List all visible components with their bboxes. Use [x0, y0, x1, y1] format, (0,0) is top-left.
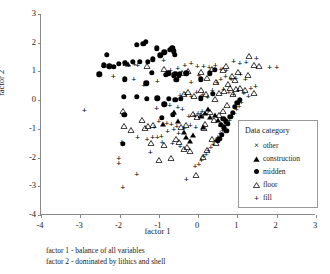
point-fill: + [226, 87, 231, 96]
point-midden [172, 52, 177, 57]
point-midden [167, 47, 172, 52]
point-floor [232, 79, 239, 85]
point-floor [194, 107, 201, 113]
caption-line-1: factor 1 - balance of all variables [46, 245, 165, 256]
point-fill: + [253, 82, 258, 91]
x-tick [237, 215, 238, 218]
point-fill: + [135, 60, 140, 69]
point-midden [210, 91, 215, 96]
point-midden [219, 132, 224, 137]
legend-entry-construction[interactable]: construction [250, 152, 317, 165]
point-fill: + [239, 98, 244, 107]
point-fill: + [243, 58, 248, 67]
point-fill: + [243, 74, 248, 83]
point-fill: + [144, 134, 149, 143]
point-midden [170, 112, 175, 117]
legend-entry-fill[interactable]: +fill [250, 191, 317, 204]
point-floor [155, 150, 162, 156]
point-fill: + [169, 120, 174, 129]
y-tick-label: -2 [18, 153, 36, 162]
legend-entry-floor[interactable]: floor [250, 178, 317, 191]
y-tick-label: 1 [18, 66, 36, 75]
point-construction [218, 121, 224, 126]
point-fill: + [122, 76, 127, 85]
point-midden [166, 70, 171, 75]
legend-symbol-floor-icon [250, 182, 263, 188]
point-fill: + [161, 99, 166, 108]
point-fill: + [196, 71, 201, 80]
y-tick-label: -3 [18, 181, 36, 190]
point-fill: + [170, 139, 175, 148]
point-floor [183, 115, 190, 121]
point-construction [207, 115, 213, 120]
x-tick [120, 215, 121, 218]
point-fill: + [210, 139, 215, 148]
point-fill: + [222, 122, 227, 131]
point-floor [128, 120, 135, 126]
legend-label: midden [263, 167, 286, 176]
point-midden [140, 41, 145, 46]
point-floor [148, 133, 155, 139]
point-fill: + [159, 132, 164, 141]
point-fill: + [248, 83, 253, 92]
point-midden [121, 94, 126, 99]
point-fill: + [181, 123, 186, 132]
legend-entry-midden[interactable]: midden [250, 165, 317, 178]
point-construction [198, 114, 204, 119]
point-floor [219, 101, 226, 107]
point-floor [184, 61, 191, 67]
point-floor [191, 86, 198, 92]
point-floor [184, 82, 191, 88]
point-fill: + [231, 90, 236, 99]
point-midden [144, 96, 149, 101]
point-floor [177, 117, 184, 123]
point-fill: + [225, 119, 230, 128]
point-construction [175, 118, 181, 123]
point-midden [149, 70, 154, 75]
point-fill: + [208, 142, 213, 151]
point-floor [235, 62, 242, 68]
point-floor [173, 129, 180, 135]
point-fill: + [241, 88, 246, 97]
point-floor [189, 104, 196, 110]
point-midden [184, 70, 189, 75]
point-fill: + [119, 138, 124, 147]
legend-title: Data category [245, 126, 317, 135]
point-floor [236, 78, 243, 84]
point-floor [203, 140, 210, 146]
point-midden [162, 50, 167, 55]
point-fill: + [213, 136, 218, 145]
point-midden [163, 72, 168, 77]
point-floor [226, 78, 233, 84]
legend-symbol-fill-icon: + [250, 193, 263, 203]
point-fill: + [221, 84, 226, 93]
point-midden [134, 94, 139, 99]
legend-label: other [263, 141, 278, 150]
point-fill: + [215, 132, 220, 141]
point-midden [120, 141, 125, 146]
point-fill: + [152, 122, 157, 131]
x-tick [159, 215, 160, 218]
point-construction [190, 133, 196, 138]
point-fill: + [246, 92, 251, 101]
point-midden [228, 114, 233, 119]
point-fill: + [236, 85, 241, 94]
point-fill: + [188, 58, 193, 67]
x-tick [277, 215, 278, 218]
point-construction [212, 112, 218, 117]
point-midden [101, 62, 106, 67]
point-fill: + [254, 54, 259, 63]
point-fill: + [192, 162, 197, 171]
y-tick [38, 129, 41, 130]
legend-entry-other[interactable]: ×other [250, 139, 317, 152]
point-fill: + [161, 55, 166, 64]
point-floor [224, 95, 231, 101]
point-midden [173, 71, 178, 76]
point-fill: + [232, 108, 237, 117]
point-floor [202, 114, 209, 120]
point-construction [215, 118, 221, 123]
point-construction [200, 124, 206, 129]
point-fill: + [177, 90, 182, 99]
caption-line-2: factor 2 - dominated by lithics and shel… [46, 256, 165, 267]
point-fill: + [199, 107, 204, 116]
